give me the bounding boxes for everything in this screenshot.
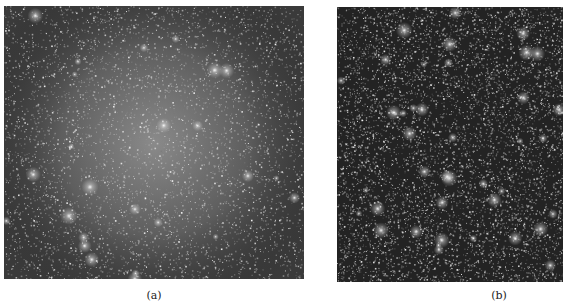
caption-b: (b): [479, 289, 519, 302]
star-field-b-canvas: [337, 7, 563, 282]
caption-a: (a): [134, 289, 174, 302]
panel-b-star-field-image: [337, 7, 563, 282]
panel-a-star-field-image: [4, 6, 304, 279]
star-field-a-canvas: [4, 6, 304, 279]
